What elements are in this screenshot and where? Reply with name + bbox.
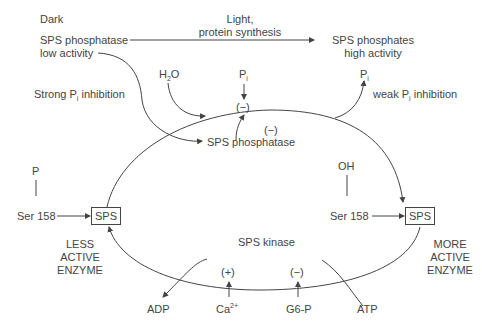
right-state-line1: SPS phosphates	[318, 34, 428, 47]
left-sps-box: SPS	[91, 207, 121, 225]
calcium-label: Ca2+	[216, 303, 238, 316]
more-active-enzyme: MORE ACTIVE ENZYME	[418, 238, 482, 277]
less-active-enzyme: LESS ACTIVE ENZYME	[50, 238, 110, 277]
hydroxyl-group: OH	[338, 160, 355, 173]
left-state-line1: SPS phosphatase	[40, 34, 128, 47]
pi-right-label: Pi	[360, 68, 369, 81]
phosphatase-low-activity: SPS phosphatase low activity	[40, 34, 128, 60]
pi-center-label: Pi	[239, 68, 248, 81]
g6p-label: G6-P	[286, 303, 312, 316]
phosphates-high-activity: SPS phosphates high activity	[318, 34, 428, 60]
water-label: H2O	[159, 68, 179, 81]
g6p-effect: (−)	[290, 266, 304, 279]
light-label-line2: protein synthesis	[160, 26, 320, 39]
right-state-line2: high activity	[318, 47, 428, 60]
adp-label: ADP	[147, 303, 170, 316]
light-label-line1: Light,	[160, 13, 320, 26]
atp-label: ATP	[357, 303, 378, 316]
right-sps-box: SPS	[405, 207, 435, 225]
left-state-line2: low activity	[40, 47, 128, 60]
weak-pi-inhibition: weak Pi inhibition	[373, 88, 457, 101]
strong-pi-inhibition: Strong Pi inhibition	[34, 88, 125, 101]
light-label: Light, protein synthesis	[160, 13, 320, 39]
minus-top: (−)	[236, 101, 250, 114]
dark-label: Dark	[40, 13, 63, 26]
phosphate-group: P	[32, 165, 39, 178]
right-ser158: Ser 158	[330, 210, 369, 223]
left-ser158: Ser 158	[17, 210, 56, 223]
sps-phosphatase-label: SPS phosphatase	[207, 136, 295, 149]
calcium-effect: (+)	[221, 266, 235, 279]
sps-kinase-label: SPS kinase	[238, 236, 295, 249]
